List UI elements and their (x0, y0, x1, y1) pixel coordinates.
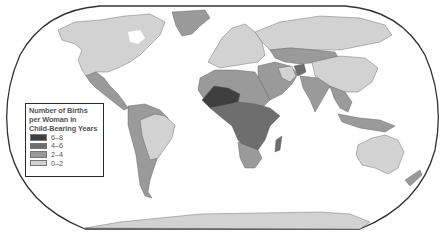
legend-title-line-3: Child-Bearing Years (29, 124, 100, 133)
legend-swatch (30, 151, 47, 158)
legend-title-line-1: Number of Births (29, 106, 100, 115)
legend-item-4-6: 4–6 (30, 142, 100, 151)
legend-swatch (30, 134, 47, 141)
legend-label: 0–2 (51, 159, 63, 168)
legend-item-6-8: 6–8 (30, 133, 100, 142)
legend-swatch (30, 143, 47, 150)
map-legend: Number of Births per Woman in Child-Bear… (25, 103, 104, 177)
legend-title-line-2: per Woman in (29, 115, 100, 124)
legend-item-0-2: 0–2 (30, 159, 100, 168)
legend-item-2-4: 2–4 (30, 150, 100, 159)
legend-swatch (30, 160, 47, 167)
